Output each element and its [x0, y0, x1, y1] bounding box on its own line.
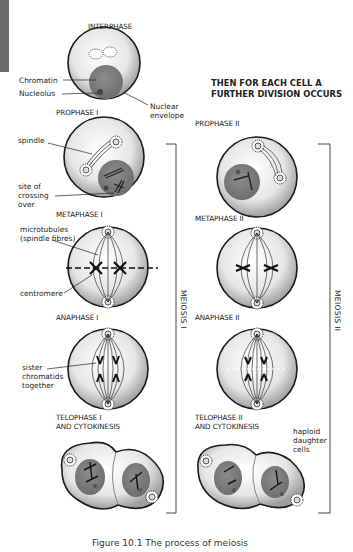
stage-title-anaphase-1: ANAPHASE I [56, 313, 98, 322]
telophase-1-cells [62, 442, 164, 509]
label-centromere: centromere [20, 289, 63, 298]
figure-caption: Figure 10.1 The process of meiosis [92, 538, 248, 548]
label-sister-chromatids-line2: chromatids [22, 372, 63, 381]
label-crossing-over-line2: crossing [18, 191, 49, 200]
label-haploid-line2: daughter [293, 436, 327, 445]
label-nuclear-envelope-line1: Nuclear [150, 102, 178, 111]
stage-title-interphase: INTERPHASE [88, 22, 132, 31]
label-microtubules-line1: microtubules [20, 225, 68, 234]
stage-title-telophase-1-line1: TELOPHASE I [56, 413, 101, 422]
prophase-2-cell [217, 137, 297, 217]
label-crossing-over-line3: over [18, 200, 34, 209]
stage-title-prophase-2: PROPHASE II [195, 119, 239, 128]
stage-title-prophase-1: PROPHASE I [56, 108, 98, 117]
label-spindle: spindle [18, 136, 45, 145]
stage-title-anaphase-2: ANAPHASE II [195, 313, 239, 322]
label-microtubules-line2: (spindle fibres) [20, 234, 75, 243]
label-haploid-line1: haploid [293, 427, 320, 436]
label-sister-chromatids-line3: together [22, 381, 54, 390]
label-nuclear-envelope-line2: envelope [150, 111, 184, 120]
telophase-2-cells [198, 444, 304, 508]
stage-title-metaphase-1: METAPHASE I [56, 210, 103, 219]
meiosis-2-bracket [318, 144, 330, 513]
label-chromatin: Chromatin [19, 76, 58, 85]
stage-title-telophase-1-line2: AND CYTOKINESIS [56, 422, 120, 431]
stage-title-metaphase-2: METAPHASE II [195, 214, 244, 223]
label-crossing-over-line1: site of [18, 182, 41, 191]
meiosis-1-label: MEIOSIS I [179, 290, 188, 329]
right-header-line2: FURTHER DIVISION OCCURS [211, 89, 342, 100]
stage-title-telophase-2-line2: AND CYTOKINESIS [195, 422, 259, 431]
right-header-line1: THEN FOR EACH CELL A [211, 78, 322, 89]
meiosis-2-label: MEIOSIS II [333, 290, 342, 331]
meiosis-1-bracket [166, 144, 176, 513]
label-haploid-line3: cells [293, 445, 310, 454]
anaphase-2-cell [217, 328, 297, 410]
prophase-1-cell [48, 117, 144, 197]
metaphase-2-cell [217, 227, 297, 309]
interphase-cell [62, 27, 148, 105]
stage-title-telophase-2-line1: TELOPHASE II [195, 413, 242, 422]
label-nucleolus: Nucleolus [19, 89, 55, 98]
label-sister-chromatids-line1: sister [22, 363, 42, 372]
anaphase-1-cell [47, 328, 148, 410]
